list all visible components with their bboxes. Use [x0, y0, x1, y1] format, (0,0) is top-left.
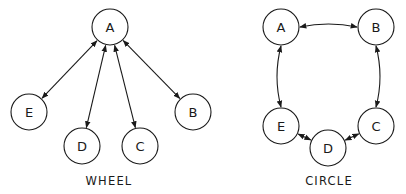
node-label: E	[25, 105, 33, 120]
wheel-node-b: B	[175, 94, 211, 130]
edges-layer	[42, 24, 380, 140]
wheel-node-e: E	[11, 94, 47, 130]
wheel-edge-a-e	[42, 41, 97, 98]
node-label: C	[135, 139, 144, 154]
node-label: E	[277, 119, 285, 134]
circle-node-c: C	[358, 108, 394, 144]
circle-node-b: B	[358, 9, 394, 45]
node-label: D	[77, 139, 87, 154]
circle-edge-e-a	[277, 46, 281, 107]
wheel-caption: WHEEL	[86, 174, 133, 188]
circle-edge-c-d	[345, 134, 358, 140]
network-diagrams-figure: ABCDEABCDE WHEELCIRCLE	[0, 0, 406, 194]
nodes-layer: ABCDEABCDE	[11, 9, 394, 166]
circle-node-e: E	[263, 108, 299, 144]
node-label: C	[371, 119, 380, 134]
circle-edge-d-e	[298, 134, 311, 140]
captions-layer: WHEELCIRCLE	[86, 174, 353, 188]
circle-edge-a-b	[300, 24, 357, 27]
node-label: A	[106, 20, 115, 35]
wheel-edge-a-c	[115, 45, 136, 127]
node-label: A	[277, 20, 286, 35]
circle-node-d: D	[310, 130, 346, 166]
node-label: D	[323, 141, 333, 156]
wheel-node-a: A	[92, 9, 128, 45]
node-label: B	[372, 20, 381, 35]
circle-edge-b-c	[376, 46, 380, 107]
wheel-edge-a-b	[123, 41, 179, 99]
wheel-node-d: D	[64, 128, 100, 164]
circle-caption: CIRCLE	[305, 174, 353, 188]
wheel-edge-a-d	[86, 45, 105, 127]
node-label: B	[189, 105, 198, 120]
diagram-canvas: ABCDEABCDE WHEELCIRCLE	[0, 0, 406, 194]
circle-node-a: A	[263, 9, 299, 45]
wheel-node-c: C	[122, 128, 158, 164]
